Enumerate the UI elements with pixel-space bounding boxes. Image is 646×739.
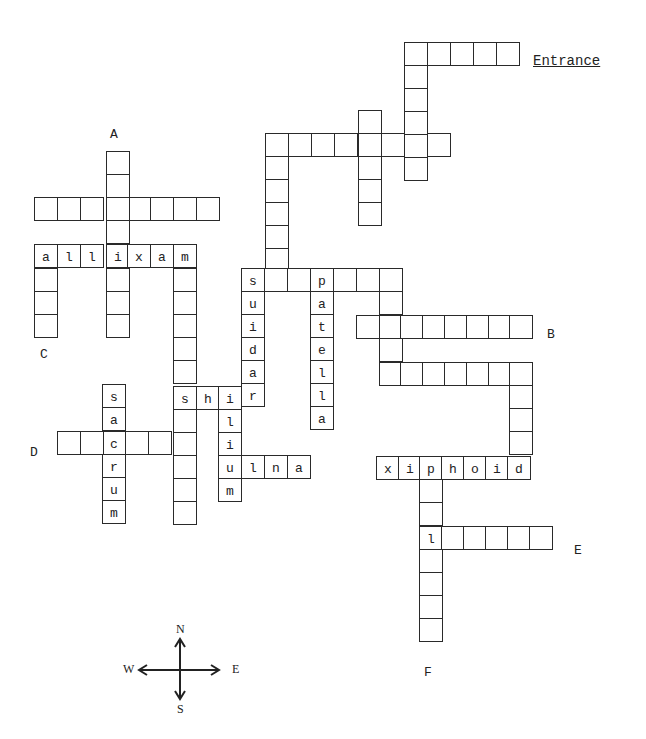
crossword-cell[interactable]: m (173, 244, 197, 268)
crossword-cell[interactable]: a (34, 244, 58, 268)
crossword-cell[interactable] (196, 197, 220, 221)
crossword-cell[interactable] (400, 362, 424, 386)
crossword-cell[interactable]: s (102, 384, 126, 408)
crossword-cell[interactable] (509, 408, 533, 432)
crossword-cell[interactable] (466, 362, 490, 386)
crossword-cell[interactable]: l (57, 244, 81, 268)
crossword-cell[interactable]: e (310, 337, 334, 361)
crossword-cell[interactable] (173, 337, 197, 361)
crossword-cell[interactable]: s (173, 386, 197, 410)
crossword-cell[interactable] (419, 618, 443, 642)
crossword-cell[interactable]: l (218, 409, 242, 433)
crossword-cell[interactable] (173, 478, 197, 502)
crossword-cell[interactable] (311, 133, 335, 157)
crossword-cell[interactable] (379, 268, 403, 292)
crossword-cell[interactable] (356, 268, 380, 292)
crossword-cell[interactable]: l (310, 383, 334, 407)
crossword-cell[interactable] (106, 151, 130, 175)
crossword-cell[interactable]: a (287, 455, 311, 479)
crossword-cell[interactable] (106, 291, 130, 315)
crossword-cell[interactable] (509, 385, 533, 409)
crossword-cell[interactable]: l (241, 455, 265, 479)
crossword-cell[interactable]: s (241, 268, 265, 292)
crossword-cell[interactable]: l (419, 526, 443, 550)
crossword-cell[interactable] (400, 315, 424, 339)
crossword-cell[interactable] (80, 197, 104, 221)
crossword-cell[interactable]: x (376, 456, 400, 480)
crossword-cell[interactable]: d (507, 456, 531, 480)
crossword-cell[interactable] (496, 42, 520, 66)
crossword-cell[interactable] (106, 268, 130, 292)
crossword-cell[interactable] (358, 133, 382, 157)
crossword-cell[interactable] (57, 431, 81, 455)
crossword-cell[interactable]: m (102, 500, 126, 524)
crossword-cell[interactable] (419, 572, 443, 596)
crossword-cell[interactable]: d (241, 337, 265, 361)
crossword-cell[interactable] (265, 202, 289, 226)
crossword-cell[interactable] (173, 314, 197, 338)
crossword-cell[interactable] (358, 202, 382, 226)
crossword-cell[interactable]: h (441, 456, 465, 480)
crossword-cell[interactable] (264, 268, 288, 292)
crossword-cell[interactable] (57, 197, 81, 221)
crossword-cell[interactable]: x (127, 244, 151, 268)
crossword-cell[interactable] (450, 42, 474, 66)
crossword-cell[interactable] (265, 156, 289, 180)
crossword-cell[interactable] (404, 157, 428, 181)
crossword-cell[interactable]: a (310, 291, 334, 315)
crossword-cell[interactable] (288, 133, 312, 157)
crossword-cell[interactable] (34, 268, 58, 292)
crossword-cell[interactable] (173, 455, 197, 479)
crossword-cell[interactable] (358, 110, 382, 134)
crossword-cell[interactable] (173, 432, 197, 456)
crossword-cell[interactable] (404, 134, 428, 158)
crossword-cell[interactable] (106, 174, 130, 198)
crossword-cell[interactable]: i (218, 386, 242, 410)
crossword-cell[interactable] (34, 291, 58, 315)
crossword-cell[interactable] (444, 362, 468, 386)
crossword-cell[interactable] (422, 362, 446, 386)
crossword-cell[interactable] (173, 360, 197, 384)
crossword-cell[interactable] (509, 431, 533, 455)
crossword-cell[interactable] (422, 315, 446, 339)
crossword-cell[interactable] (509, 362, 533, 386)
crossword-cell[interactable] (485, 526, 509, 550)
crossword-cell[interactable] (419, 549, 443, 573)
crossword-cell[interactable] (34, 314, 58, 338)
crossword-cell[interactable] (265, 225, 289, 249)
crossword-cell[interactable]: l (310, 360, 334, 384)
crossword-cell[interactable] (379, 338, 403, 362)
crossword-cell[interactable] (173, 409, 197, 433)
crossword-cell[interactable]: i (241, 314, 265, 338)
crossword-cell[interactable] (404, 42, 428, 66)
crossword-cell[interactable]: a (310, 406, 334, 430)
crossword-cell[interactable] (381, 133, 405, 157)
crossword-cell[interactable]: t (310, 314, 334, 338)
crossword-cell[interactable] (444, 315, 468, 339)
crossword-cell[interactable] (173, 501, 197, 525)
crossword-cell[interactable] (507, 526, 531, 550)
crossword-cell[interactable]: a (241, 360, 265, 384)
crossword-cell[interactable] (466, 315, 490, 339)
crossword-cell[interactable]: a (102, 407, 126, 431)
crossword-cell[interactable] (106, 197, 130, 221)
crossword-cell[interactable] (265, 179, 289, 203)
crossword-cell[interactable] (404, 88, 428, 112)
crossword-cell[interactable] (173, 197, 197, 221)
crossword-cell[interactable] (463, 526, 487, 550)
crossword-cell[interactable]: i (485, 456, 509, 480)
crossword-cell[interactable] (125, 431, 149, 455)
crossword-cell[interactable] (419, 502, 443, 526)
crossword-cell[interactable] (106, 314, 130, 338)
crossword-cell[interactable]: r (241, 383, 265, 407)
crossword-cell[interactable] (80, 431, 104, 455)
crossword-cell[interactable]: h (196, 386, 220, 410)
crossword-cell[interactable]: p (310, 268, 334, 292)
crossword-cell[interactable]: u (218, 455, 242, 479)
crossword-cell[interactable] (419, 479, 443, 503)
crossword-cell[interactable]: o (463, 456, 487, 480)
crossword-cell[interactable]: m (218, 478, 242, 502)
crossword-cell[interactable]: p (419, 456, 443, 480)
crossword-cell[interactable] (404, 111, 428, 135)
crossword-cell[interactable]: n (264, 455, 288, 479)
